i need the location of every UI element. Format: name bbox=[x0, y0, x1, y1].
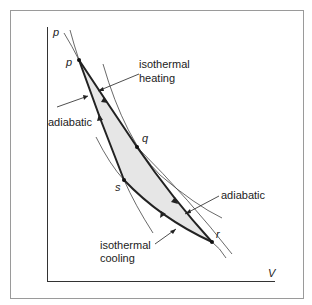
diagram-canvas: p V p q r s bbox=[0, 0, 312, 305]
y-axis-label: p bbox=[52, 26, 59, 38]
label-isothermal-heating-1: isothermal bbox=[139, 58, 190, 70]
point-p-label: p bbox=[65, 56, 72, 68]
point-r-label: r bbox=[216, 228, 221, 240]
point-p-dot bbox=[77, 58, 81, 62]
cycle-area bbox=[79, 60, 212, 242]
point-s-dot bbox=[122, 178, 126, 182]
leader-isothermal-heating bbox=[98, 74, 139, 91]
label-isothermal-heating-2: heating bbox=[139, 72, 175, 84]
isotherm-cold-extension-bottom bbox=[212, 242, 226, 258]
point-s-label: s bbox=[115, 181, 121, 193]
point-r-dot bbox=[210, 240, 214, 244]
outer-frame bbox=[11, 11, 304, 299]
leader-arrow-adiabatic-left-icon bbox=[83, 95, 88, 100]
point-q-dot bbox=[135, 145, 139, 149]
carnot-diagram: p V p q r s bbox=[0, 0, 312, 305]
x-axis-label: V bbox=[268, 267, 277, 279]
leader-adiabatic-left bbox=[57, 96, 88, 107]
label-isothermal-cooling-1: isothermal bbox=[100, 239, 151, 251]
point-q-label: q bbox=[142, 132, 149, 144]
leader-arrow-cooling-icon bbox=[170, 229, 176, 234]
label-adiabatic-right: adiabatic bbox=[221, 189, 266, 201]
label-isothermal-cooling-2: cooling bbox=[100, 252, 135, 264]
label-adiabatic-left: adiabatic bbox=[48, 116, 93, 128]
